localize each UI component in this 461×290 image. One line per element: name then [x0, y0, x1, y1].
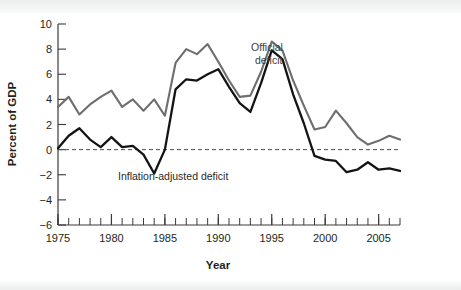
y-axis-tick-labels: 1086420−2−4−6 — [39, 18, 52, 231]
series-line-official-deficit — [58, 42, 400, 145]
y-tick-label-7: −4 — [39, 194, 52, 206]
y-tick-label-4: 2 — [46, 119, 52, 131]
x-tick-label-3: 1990 — [206, 232, 230, 244]
y-tick-label-8: −6 — [39, 219, 52, 231]
y-axis-ticks — [58, 24, 66, 225]
line-chart-canvas: 1086420−2−4−6 19751980198519901995200020… — [0, 0, 461, 290]
x-tick-label-1: 1980 — [99, 232, 123, 244]
y-tick-label-1: 8 — [46, 43, 52, 55]
y-axis-title: Percent of GDP — [6, 81, 18, 166]
y-tick-label-3: 4 — [46, 93, 52, 105]
y-tick-label-0: 10 — [40, 18, 52, 30]
y-tick-label-5: 0 — [46, 144, 52, 156]
y-tick-label-6: −2 — [39, 169, 52, 181]
official-deficit-label-line2: deficit — [255, 54, 283, 66]
inflation-adjusted-deficit-label: Inflation-adjusted deficit — [118, 170, 228, 182]
series-line-inflation-adjusted-deficit — [58, 50, 400, 173]
x-axis-minor-ticks — [58, 218, 400, 225]
x-tick-label-0: 1975 — [46, 232, 70, 244]
x-axis-major-ticks — [58, 214, 379, 225]
x-tick-label-4: 1995 — [260, 232, 284, 244]
official-deficit-label-line1: Official — [251, 41, 283, 53]
x-axis-title: Year — [206, 259, 231, 271]
x-axis-tick-labels: 1975198019851990199520002005 — [46, 232, 391, 244]
x-tick-label-6: 2005 — [366, 232, 390, 244]
y-tick-label-2: 6 — [46, 68, 52, 80]
chart-figure: 1086420−2−4−6 19751980198519901995200020… — [0, 0, 461, 290]
x-tick-label-2: 1985 — [153, 232, 177, 244]
x-tick-label-5: 2000 — [313, 232, 337, 244]
